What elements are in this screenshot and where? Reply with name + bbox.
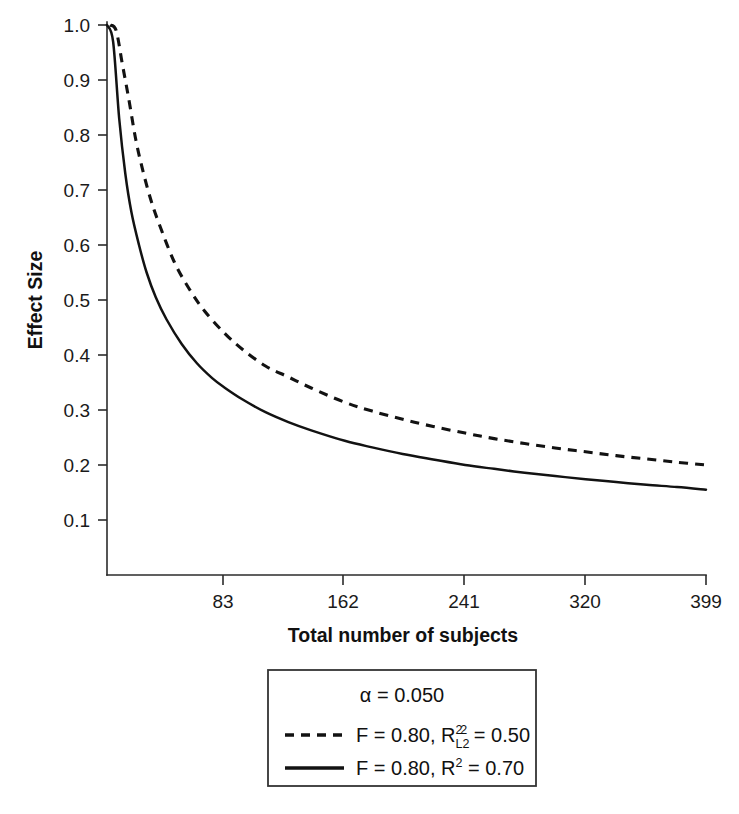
y-tick-label: 1.0	[64, 15, 90, 36]
chart-figure: 1.0 0.9 0.8 0.7 0.6 0.5 0.4 0.3 0.2 0.1 …	[0, 0, 739, 814]
legend-solid-suffix: = 0.70	[462, 757, 524, 779]
y-tick-label: 0.9	[64, 70, 90, 91]
legend-entry-solid: F = 0.80, R2 = 0.70	[356, 756, 524, 779]
x-axis-title: Total number of subjects	[288, 624, 519, 646]
y-tick-label: 0.5	[64, 290, 90, 311]
x-tick-label: 399	[690, 591, 722, 612]
legend-solid-superscript: 2	[456, 756, 463, 770]
y-tick-label: 0.8	[64, 125, 90, 146]
legend-dashed-subscript: L2	[455, 737, 469, 751]
legend-dashed-suffix: = 0.50	[468, 724, 530, 746]
x-tick-label: 320	[569, 591, 601, 612]
y-tick-label: 0.4	[64, 345, 91, 366]
effect-size-line-chart: 1.0 0.9 0.8 0.7 0.6 0.5 0.4 0.3 0.2 0.1 …	[0, 0, 739, 814]
y-tick-label: 0.6	[64, 235, 90, 256]
legend-dashed-superscript-2: 2	[460, 723, 467, 737]
legend: α = 0.050 F = 0.80, R2L22 = 0.50 F = 0.8…	[268, 670, 536, 786]
y-tick-label: 0.1	[64, 510, 90, 531]
legend-dashed-prefix: F = 0.80, R	[356, 724, 456, 746]
y-tick-label: 0.2	[64, 455, 90, 476]
x-tick-label: 241	[448, 591, 480, 612]
x-tick-label: 83	[212, 591, 233, 612]
x-tick-label: 162	[327, 591, 359, 612]
legend-solid-prefix: F = 0.80, R	[356, 757, 456, 779]
y-axis-title: Effect Size	[24, 251, 46, 350]
legend-alpha-label: α = 0.050	[360, 684, 444, 706]
y-tick-label: 0.7	[64, 180, 90, 201]
y-tick-label: 0.3	[64, 400, 90, 421]
